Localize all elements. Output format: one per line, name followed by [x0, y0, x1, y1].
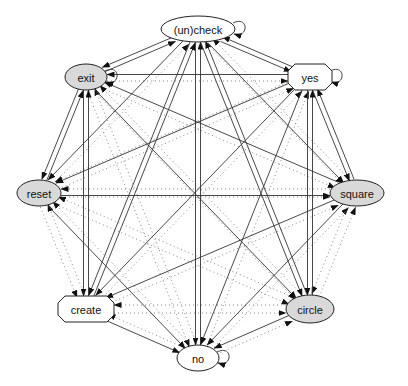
- edge-exit-to-reset: [42, 89, 79, 180]
- node-label: circle: [297, 304, 323, 316]
- edge-create-to-no: [105, 320, 179, 353]
- edge-square-to-exit: [104, 82, 337, 182]
- node-label: (un)check: [174, 24, 223, 36]
- node-label: exit: [77, 72, 94, 84]
- edge-square-to-create: [106, 199, 336, 298]
- node-exit[interactable]: exit: [65, 64, 107, 90]
- node-create[interactable]: create: [58, 296, 114, 322]
- node-no[interactable]: no: [177, 345, 219, 371]
- edge-uncheck-to-reset: [48, 40, 184, 180]
- edge-reset-to-exit: [46, 91, 83, 182]
- node-label: create: [71, 304, 102, 316]
- node-square[interactable]: square: [330, 180, 384, 206]
- edge-exit-to-uncheck: [104, 41, 175, 72]
- edge-reset-to-create: [40, 207, 77, 298]
- edge-no-to-reset: [53, 202, 190, 345]
- edge-yes-to-uncheck: [222, 37, 293, 67]
- edge-square-to-no: [207, 203, 344, 345]
- node-label: yes: [301, 72, 319, 84]
- edge-no-to-square: [212, 208, 349, 350]
- node-label: no: [192, 353, 204, 365]
- node-circle[interactable]: circle: [286, 295, 334, 323]
- edge-yes-to-square: [313, 91, 350, 182]
- node-yes[interactable]: yes: [288, 64, 332, 90]
- edge-yes-to-create: [96, 87, 298, 296]
- edge-create-to-reset: [48, 204, 85, 295]
- node-uncheck[interactable]: (un)check: [161, 16, 235, 42]
- node-label: reset: [27, 188, 51, 200]
- edge-circle-to-no: [214, 315, 290, 348]
- edge-no-to-circle: [217, 321, 293, 354]
- edge-reset-to-no: [48, 206, 185, 349]
- node-reset[interactable]: reset: [17, 180, 61, 206]
- node-label: square: [340, 188, 374, 200]
- edge-circle-to-square: [319, 207, 355, 297]
- state-transition-graph: (un)checkyessquarecirclenocreateresetexi…: [0, 0, 408, 386]
- edge-uncheck-to-exit: [102, 37, 173, 68]
- edge-circle-to-reset: [58, 197, 292, 297]
- edge-square-to-yes: [317, 89, 354, 180]
- edge-no-to-create: [108, 314, 183, 347]
